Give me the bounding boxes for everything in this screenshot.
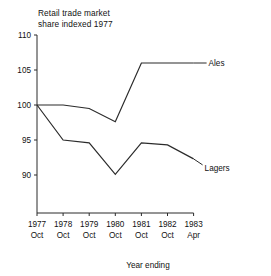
x-tick-label-year: 1981 [132,220,151,229]
series-label-lagers: Lagers [205,164,230,173]
x-axis-tick-group: 1977Oct1978Oct1979Oct1980Oct1981Oct1982O… [28,213,203,240]
series-line-lagers [37,105,194,174]
series-path-group [37,63,207,174]
x-axis-label: Year ending [126,261,170,270]
x-tick-label-month: Oct [109,231,122,240]
x-tick-label-month: Oct [83,231,96,240]
chart-container: Retail trade market share indexed 1977 1… [0,0,271,276]
x-tick-label-year: 1978 [54,220,73,229]
chart-svg: 1101051009590 1977Oct1978Oct1979Oct1980O… [0,0,271,276]
y-axis-tick-group: 1101051009590 [17,31,37,180]
series-leader-lagers [194,159,203,165]
x-tick-label-year: 1977 [28,220,47,229]
series-line-ales [37,63,194,122]
x-tick-label-year: 1983 [184,220,203,229]
x-tick-label-month: Oct [31,231,44,240]
series-label-group: AlesLagers [205,59,230,173]
x-tick-label-month: Apr [187,231,200,240]
y-tick-label: 110 [18,31,31,40]
x-tick-label-month: Oct [57,231,70,240]
x-tick-label-month: Oct [161,231,174,240]
y-tick-label: 90 [22,171,32,180]
series-label-ales: Ales [209,59,225,68]
x-tick-label-year: 1982 [158,220,177,229]
y-tick-label: 100 [17,101,31,110]
x-tick-label-month: Oct [135,231,148,240]
x-tick-label-year: 1980 [106,220,125,229]
x-tick-label-year: 1979 [80,220,99,229]
y-tick-label: 95 [22,136,32,145]
y-tick-label: 105 [17,66,31,75]
